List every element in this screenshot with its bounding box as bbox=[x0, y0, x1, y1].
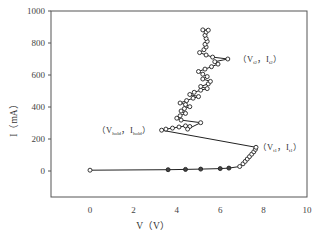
x-tick-label: 6 bbox=[218, 205, 223, 215]
data-point bbox=[171, 126, 175, 130]
data-point bbox=[184, 111, 188, 115]
data-point bbox=[197, 95, 201, 99]
data-point bbox=[197, 70, 201, 74]
data-point bbox=[179, 118, 183, 122]
x-tick-label: 10 bbox=[303, 205, 313, 215]
data-point bbox=[211, 55, 215, 59]
data-series bbox=[88, 28, 258, 172]
data-point bbox=[177, 125, 181, 129]
annotation-label: （Vt2，It2） bbox=[238, 54, 282, 65]
data-point bbox=[218, 167, 222, 171]
x-axis-label: V（V） bbox=[136, 220, 170, 231]
annotation-label: （Vhold，Ihold） bbox=[97, 125, 151, 136]
data-point bbox=[160, 128, 164, 132]
data-point bbox=[203, 67, 207, 71]
iv-chart: 02004006008001000 0246810 V（V） I（mA） （Vh… bbox=[0, 0, 320, 237]
data-point bbox=[192, 90, 196, 94]
y-axis-label: I（mA） bbox=[8, 99, 19, 136]
data-point bbox=[164, 127, 168, 131]
y-tick-label: 400 bbox=[32, 102, 46, 112]
data-point bbox=[178, 101, 182, 105]
x-tick-label: 0 bbox=[88, 205, 93, 215]
x-tick-label: 2 bbox=[131, 205, 136, 215]
data-point bbox=[199, 167, 203, 171]
data-point bbox=[178, 114, 182, 118]
x-tick-label: 8 bbox=[261, 205, 266, 215]
data-point bbox=[182, 107, 186, 111]
data-point bbox=[201, 72, 205, 76]
data-point bbox=[199, 85, 203, 89]
data-point bbox=[226, 57, 230, 61]
data-point bbox=[205, 75, 209, 79]
y-tick-label: 1000 bbox=[27, 6, 46, 16]
data-point bbox=[199, 121, 203, 125]
annotations: （Vhold，Ihold）（Vt1，It1）（Vt2，It2） bbox=[97, 54, 302, 153]
data-point bbox=[204, 53, 208, 57]
data-point bbox=[205, 87, 209, 91]
y-tick-label: 800 bbox=[32, 38, 46, 48]
data-point bbox=[88, 168, 92, 172]
data-point bbox=[184, 167, 188, 171]
data-point bbox=[213, 60, 217, 64]
data-point bbox=[188, 93, 192, 97]
data-point bbox=[227, 166, 231, 170]
data-point bbox=[206, 28, 210, 32]
data-point bbox=[166, 168, 170, 172]
data-point bbox=[210, 65, 214, 69]
data-point bbox=[201, 28, 205, 32]
x-axis-ticks: 0246810 bbox=[88, 205, 312, 215]
data-point bbox=[208, 79, 212, 83]
y-tick-label: 600 bbox=[32, 70, 46, 80]
data-point bbox=[198, 51, 202, 55]
data-point bbox=[185, 99, 189, 103]
data-point bbox=[184, 103, 188, 107]
y-tick-label: 0 bbox=[41, 166, 46, 176]
data-point bbox=[191, 96, 195, 100]
y-tick-label: 200 bbox=[32, 134, 46, 144]
data-point bbox=[188, 105, 192, 109]
x-tick-label: 4 bbox=[175, 205, 180, 215]
data-point bbox=[201, 77, 205, 81]
y-axis-ticks: 02004006008001000 bbox=[27, 6, 51, 176]
series-line bbox=[90, 30, 256, 170]
data-point bbox=[186, 127, 190, 131]
annotation-label: （Vt1，It1） bbox=[258, 142, 302, 153]
